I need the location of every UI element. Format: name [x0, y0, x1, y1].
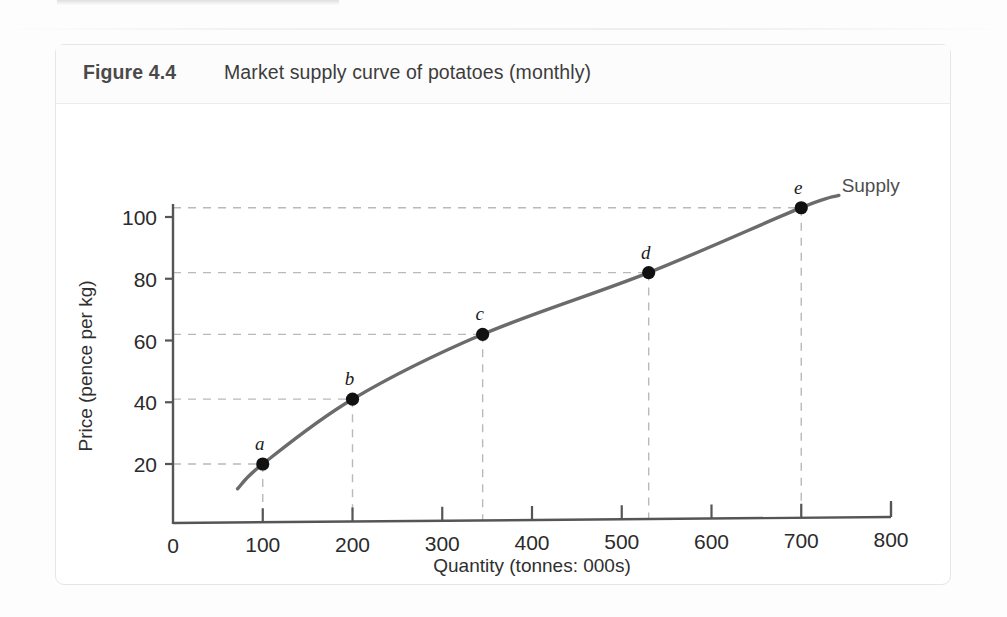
y-tick-label: 100	[122, 206, 157, 229]
vertical-gridlines	[263, 208, 802, 523]
x-tick-label: 500	[604, 530, 639, 553]
x-axis-title: Quantity (tonnes: 000s)	[433, 555, 631, 576]
data-point-c	[476, 328, 489, 341]
x-axis-tick-labels: 0100200300400500600700800	[167, 528, 908, 557]
supply-curve-line	[238, 195, 839, 488]
y-axis-title: Price (pence per kg)	[75, 280, 96, 451]
x-tick-label: 100	[245, 533, 280, 556]
figure-card: Figure 4.4 Market supply curve of potato…	[55, 44, 951, 585]
scan-artifact-top	[57, 0, 339, 5]
y-tick-label: 20	[134, 453, 157, 476]
point-label-a: a	[255, 433, 265, 454]
point-label-e: e	[794, 177, 802, 198]
y-axis-tick-labels: 20406080100	[122, 206, 157, 476]
y-tick-label: 40	[134, 391, 157, 414]
data-point-e	[795, 201, 808, 214]
x-tick-label: 0	[167, 534, 179, 557]
y-tick-label: 80	[134, 268, 157, 291]
x-tick-label: 700	[784, 529, 819, 552]
chart-plot-area: abcde 20406080100 0100200300400500600700…	[56, 104, 952, 585]
x-tick-label: 200	[335, 533, 370, 556]
supply-series-label: Supply	[842, 175, 901, 196]
figure-number-label: Figure 4.4	[83, 61, 176, 84]
x-tick-label: 600	[694, 530, 729, 553]
point-label-d: d	[641, 242, 651, 263]
x-tick-label: 300	[425, 532, 460, 555]
scan-artifact-line	[0, 28, 1007, 30]
point-label-b: b	[345, 368, 355, 389]
data-point-d	[642, 266, 655, 279]
point-label-c: c	[475, 303, 484, 324]
supply-curve-chart: abcde 20406080100 0100200300400500600700…	[56, 104, 952, 585]
y-tick-label: 60	[134, 330, 157, 353]
data-point-b	[346, 393, 359, 406]
series-annotation-group: Supply	[842, 175, 901, 196]
x-tick-label: 400	[514, 531, 549, 554]
data-point-a	[256, 457, 269, 470]
x-tick-label: 800	[873, 528, 908, 551]
figure-title: Market supply curve of potatoes (monthly…	[224, 61, 591, 84]
figure-header: Figure 4.4 Market supply curve of potato…	[56, 45, 950, 104]
